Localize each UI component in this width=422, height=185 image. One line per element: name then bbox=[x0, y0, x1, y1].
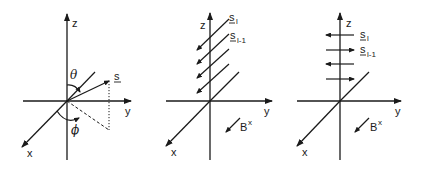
phi-label: ϕ bbox=[71, 123, 79, 137]
x-axis bbox=[297, 101, 340, 146]
spin-l-subscript: l bbox=[236, 17, 238, 26]
field-label: B bbox=[370, 121, 377, 133]
x-axis-label: x bbox=[171, 146, 177, 158]
z-axis-label: z bbox=[200, 19, 206, 31]
spin-l-label: s bbox=[229, 11, 235, 23]
theta-label: θ bbox=[70, 68, 78, 82]
y-axis-label: y bbox=[125, 105, 131, 117]
spin-vector-label: s bbox=[114, 70, 120, 82]
spin-arrow-2 bbox=[197, 34, 229, 64]
field-superscript: x bbox=[248, 118, 252, 127]
x-axis-label: x bbox=[302, 146, 308, 158]
x-axis-label: x bbox=[27, 147, 33, 159]
field-label: B bbox=[240, 121, 247, 133]
spin-arrow-4 bbox=[197, 64, 229, 93]
x-axis bbox=[166, 101, 210, 146]
x-axis-back bbox=[340, 72, 369, 101]
panel-spins-along-x: z y x s l s l-1 B x bbox=[166, 11, 272, 160]
panel-spin-angles: z y x s θ ϕ bbox=[22, 14, 131, 160]
spin-l-1-label: s bbox=[230, 29, 236, 41]
x-axis bbox=[22, 101, 67, 147]
field-superscript: x bbox=[378, 118, 382, 127]
phi-arc bbox=[57, 111, 79, 120]
spin-arrow-3 bbox=[197, 49, 229, 78]
spin-l-1-label: s bbox=[360, 43, 366, 55]
field-arrow bbox=[355, 118, 369, 132]
panel-spins-along-y: z y x s l s l-1 B x bbox=[297, 13, 401, 160]
z-axis-label: z bbox=[72, 17, 78, 29]
y-axis-label: y bbox=[395, 105, 401, 117]
spin-l-1-subscript: l-1 bbox=[237, 36, 246, 45]
x-axis-back bbox=[210, 72, 239, 101]
spin-l-subscript: l bbox=[367, 34, 369, 43]
z-axis-label: z bbox=[346, 17, 352, 29]
y-axis-label: y bbox=[264, 105, 270, 117]
spin-l-label: s bbox=[360, 28, 366, 40]
spin-vector bbox=[67, 81, 109, 101]
field-arrow bbox=[226, 118, 240, 132]
spin-l-1-subscript: l-1 bbox=[367, 50, 376, 59]
theta-arc bbox=[67, 85, 80, 92]
spin-diagram-figure: z y x s θ ϕ z y x s l bbox=[0, 0, 422, 185]
